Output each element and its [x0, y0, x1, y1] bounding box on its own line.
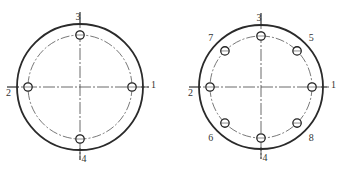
bolt-label: 2 — [188, 87, 193, 98]
four-bolt-flange: 1234 — [6, 11, 156, 164]
bolt-label: 7 — [208, 32, 213, 43]
bolt-label: 3 — [257, 12, 262, 23]
bolt-label: 2 — [6, 87, 11, 98]
bolt-label: 5 — [309, 32, 314, 43]
bolt-label: 4 — [82, 153, 87, 164]
bolt-label: 6 — [208, 132, 213, 143]
bolt-label: 3 — [76, 11, 81, 22]
bolt-label: 1 — [151, 79, 156, 90]
eight-bolt-flange: 12345678 — [188, 12, 336, 163]
bolt-label: 4 — [263, 152, 268, 163]
bolt-tightening-sequence-diagram: 123412345678 — [0, 0, 341, 174]
bolt-label: 8 — [309, 132, 314, 143]
bolt-label: 1 — [331, 79, 336, 90]
